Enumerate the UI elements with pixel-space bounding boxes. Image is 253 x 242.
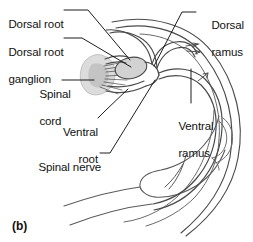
label-dorsal-root-ganglion-line1: Dorsal root: [8, 46, 63, 58]
label-ventral-ramus: Ventral ramus: [166, 106, 214, 174]
label-dorsal-ramus: Dorsal ramus: [199, 5, 244, 73]
leader-dorsal-root: [64, 10, 130, 60]
label-spinal-cord-line1: Spinal: [39, 88, 70, 100]
muscle-layer-inner-arc: [146, 196, 196, 226]
label-spinal-nerve-line1: Spinal nerve: [38, 161, 101, 173]
label-ventral-root-line1: Ventral: [63, 126, 98, 138]
label-dorsal-root-line1: Dorsal root: [8, 18, 63, 30]
ganglion-body: [113, 54, 149, 82]
lower-wall-sweep: [64, 187, 140, 206]
dorsal-ramus-ascending-loop-inner: [157, 47, 195, 68]
leader-dorsal-ramus: [154, 12, 196, 66]
label-dorsal-ramus-line2: ramus: [211, 46, 242, 58]
label-dorsal-ramus-line1: Dorsal: [211, 19, 244, 31]
figure-letter: (b): [12, 219, 27, 233]
dorsal-root-ganglion: [113, 54, 149, 82]
lower-wall-sweep-second: [70, 204, 152, 225]
label-ventral-ramus-line1: Ventral: [178, 120, 213, 132]
label-ventral-ramus-line2: ramus: [178, 147, 209, 159]
label-spinal-nerve: Spinal nerve: [26, 147, 101, 188]
figure-spinal-nerve-branches: Dorsal root Dorsal root ganglion Spinal …: [0, 0, 253, 242]
